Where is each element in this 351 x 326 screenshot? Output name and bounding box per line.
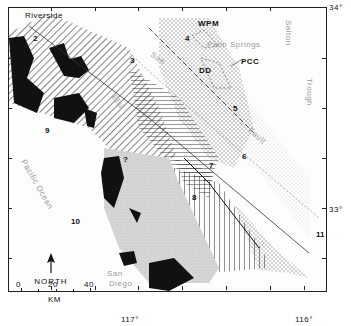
site-7: 7 <box>209 161 213 170</box>
label-pcc: PCC <box>241 57 259 66</box>
lon-116-label: 116° <box>295 315 313 324</box>
site-4: 4 <box>185 34 189 43</box>
site-9: 9 <box>45 126 49 135</box>
lat-33-label: 33° <box>329 205 343 214</box>
label-palm-springs: Palm Springs <box>207 40 261 49</box>
lon-117-label: 117° <box>121 315 139 324</box>
site-1: 1 <box>16 53 20 62</box>
site-10: 10 <box>71 217 80 226</box>
geologic-map-graphic <box>9 8 326 291</box>
scale-tick-40: 40 <box>84 280 94 289</box>
lat-34-label: 34° <box>329 3 343 12</box>
question-mark-1: ? <box>110 155 115 164</box>
north-arrow-icon <box>45 253 57 273</box>
question-mark-2: ? <box>123 155 128 164</box>
label-riverside: Riverside <box>25 11 63 20</box>
site-3: 3 <box>130 56 134 65</box>
label-san-diego-1: San <box>107 269 123 278</box>
scale-tick-20: 20 <box>48 280 58 289</box>
scale-unit: KM <box>48 295 61 304</box>
site-5: 5 <box>233 104 237 113</box>
label-wpm: WPM <box>198 19 219 28</box>
site-6: 6 <box>242 152 246 161</box>
map-frame: Riverside Palm Springs San Diego Pacific… <box>8 7 327 292</box>
site-11: 11 <box>316 230 324 239</box>
site-8: 8 <box>192 193 196 202</box>
label-san-diego-2: Diego <box>109 279 132 288</box>
site-2: 2 <box>33 34 37 43</box>
label-salton: Salton <box>284 20 293 46</box>
label-trough: Trough <box>305 78 314 106</box>
label-dd: DD <box>199 66 212 75</box>
